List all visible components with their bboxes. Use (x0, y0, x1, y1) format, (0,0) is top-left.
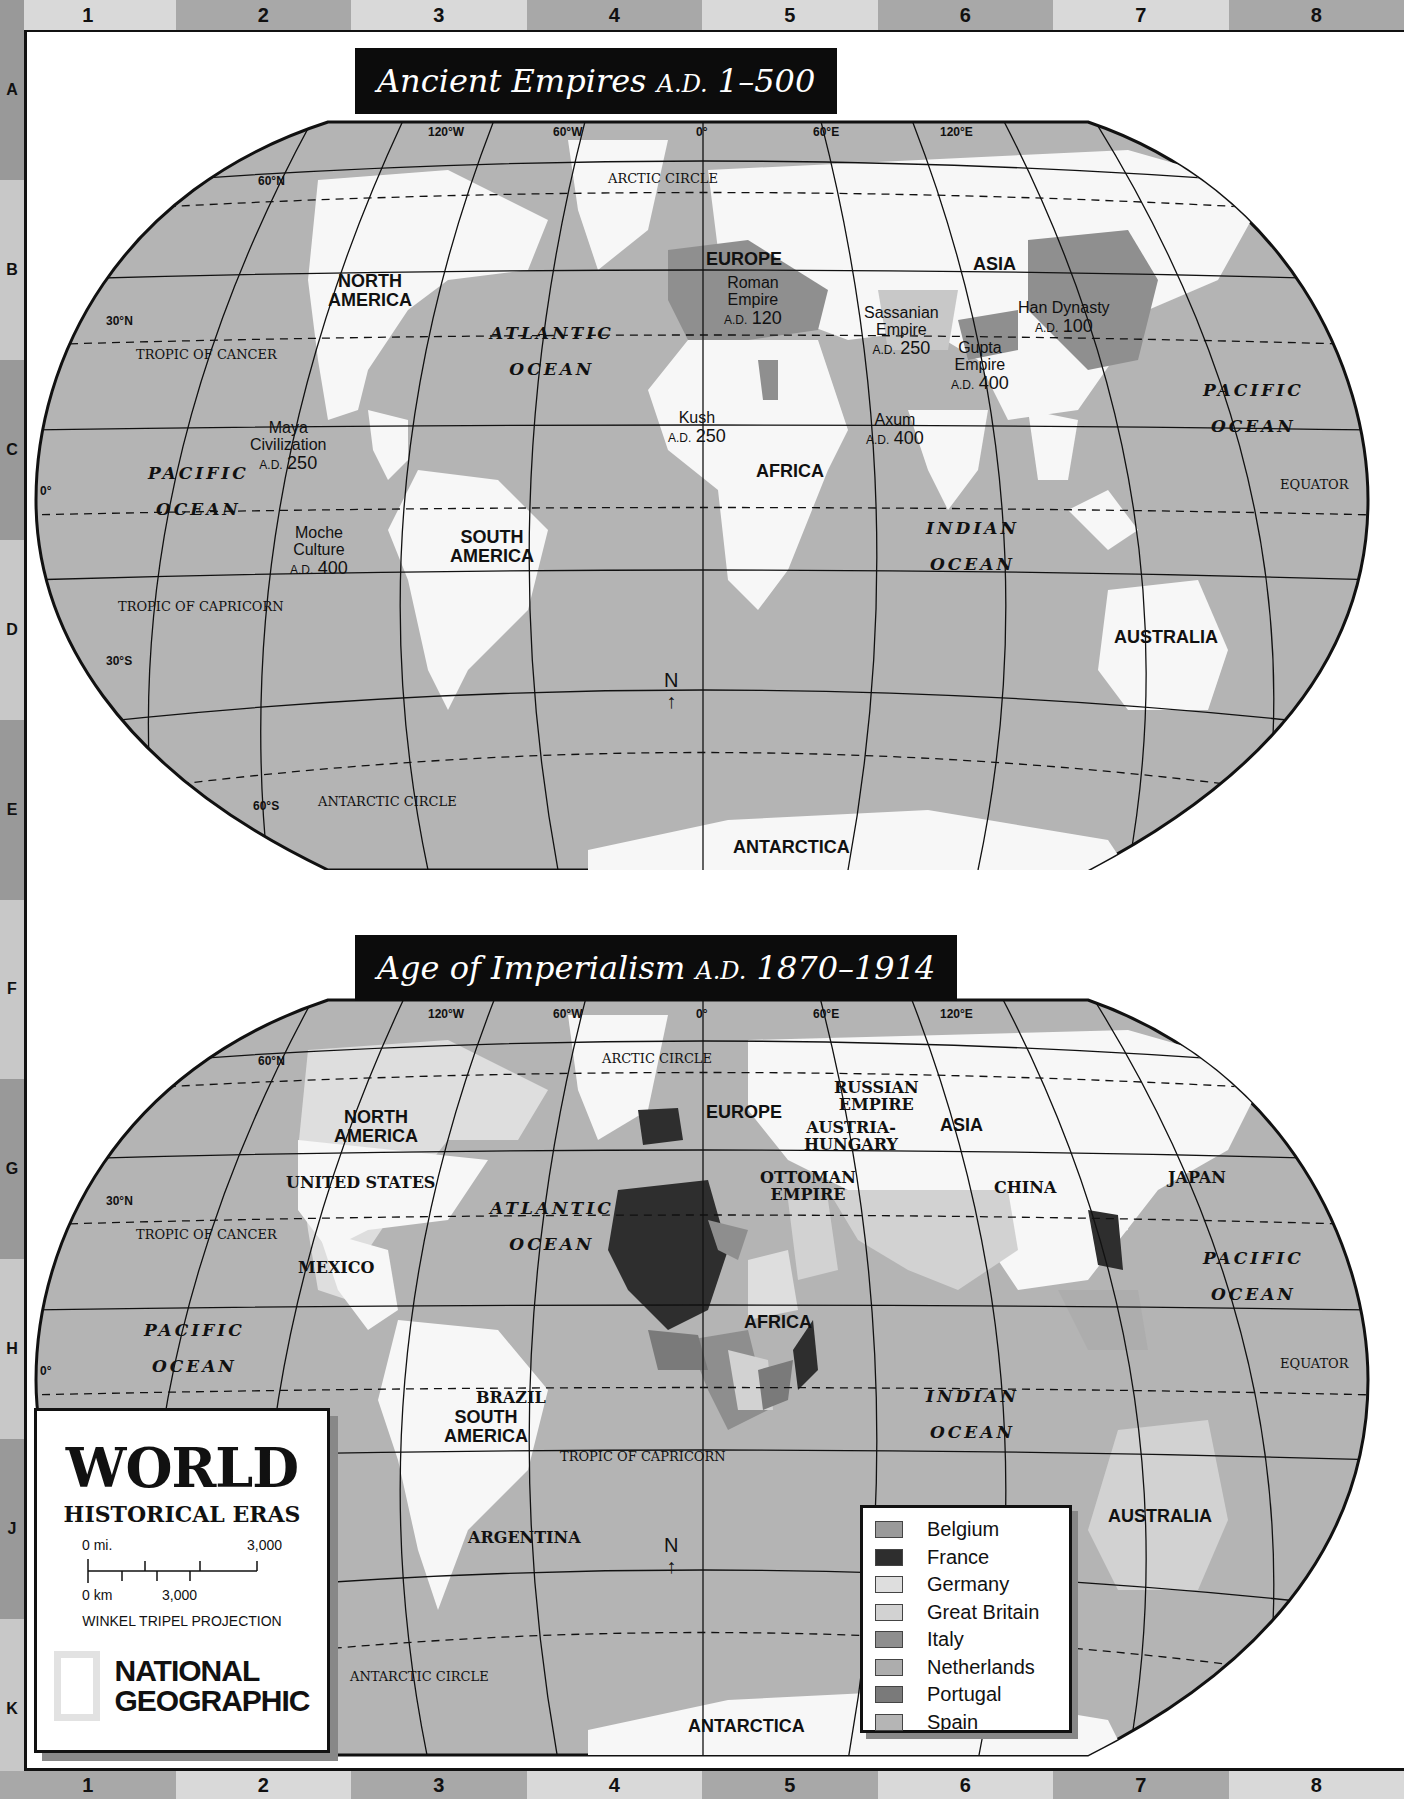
grid-row-c: C (0, 360, 24, 540)
legend-item-italy: Italy (875, 1626, 1069, 1654)
swatch-icon (875, 1576, 903, 1593)
tropic-of-cancer-label: TROPIC OF CANCER (136, 1228, 277, 1242)
empire-axum: AxumA.D. 400 (866, 412, 924, 448)
swatch-icon (875, 1714, 903, 1731)
continent-africa: AFRICA (756, 462, 824, 481)
civilization-maya: MayaCivilizationA.D. 250 (250, 420, 326, 472)
grid-row-g: G (0, 1079, 24, 1259)
legend-item-netherlands: Netherlands (875, 1654, 1069, 1682)
ocean-indian: INDIANOCEAN (926, 520, 1019, 574)
grid-col-7: 7 (1053, 1771, 1229, 1799)
grid-row-a: A (0, 0, 24, 180)
ocean-pacific: PACIFICOCEAN (148, 465, 249, 519)
longitude-label: 60°W (553, 126, 582, 139)
latitude-label: 60°N (258, 175, 285, 188)
legend-item-france: France (875, 1544, 1069, 1572)
grid-col-6: 6 (878, 0, 1054, 30)
antarctic-circle-label: ANTARCTIC CIRCLE (350, 1670, 489, 1684)
national-geographic-logo: NATIONALGEOGRAPHIC (37, 1651, 327, 1721)
legend-item-germany: Germany (875, 1571, 1069, 1599)
antarctic-circle-label: ANTARCTIC CIRCLE (318, 795, 457, 809)
grid-col-1: 1 (0, 1771, 176, 1799)
continent-asia: ASIA (940, 1116, 983, 1135)
longitude-label: 120°E (940, 1008, 973, 1021)
empire-gupta: GuptaEmpireA.D. 400 (951, 340, 1009, 392)
continent-europe: EUROPE (706, 1103, 782, 1122)
continent-south-america: SOUTHAMERICA (450, 528, 534, 566)
longitude-label: 0° (696, 126, 707, 139)
swatch-icon (875, 1549, 903, 1566)
grid-row-j: J (0, 1439, 24, 1619)
continent-north-america: NORTHAMERICA (328, 272, 412, 310)
grid-col-4: 4 (527, 0, 703, 30)
empire-roman: RomanEmpireA.D. 120 (724, 275, 782, 327)
north-arrow-icon: N↑ (664, 1535, 678, 1577)
longitude-label: 0° (696, 1008, 707, 1021)
grid-row-strip-left: A B C D E F G H J K (0, 0, 24, 1799)
grid-row-d: D (0, 540, 24, 720)
subtitle: HISTORICAL ERAS (37, 1501, 327, 1527)
empire-kush: KushA.D. 250 (668, 410, 726, 446)
culture-moche: MocheCultureA.D. 400 (290, 525, 348, 577)
longitude-label: 120°E (940, 126, 973, 139)
swatch-icon (875, 1659, 903, 1676)
longitude-label: 60°W (553, 1008, 582, 1021)
grid-col-8: 8 (1229, 0, 1404, 30)
grid-col-2: 2 (176, 0, 352, 30)
continent-north-america: NORTHAMERICA (334, 1108, 418, 1146)
continent-europe: EUROPE (706, 250, 782, 269)
latitude-label: 30°N (106, 315, 133, 328)
ocean-atlantic: ATLANTICOCEAN (490, 325, 614, 379)
grid-col-5: 5 (702, 0, 878, 30)
map-title-ancient-empires: Ancient Empires A.D. 1–500 (355, 48, 837, 114)
map-title-age-of-imperialism: Age of Imperialism A.D. 1870–1914 (355, 935, 957, 1001)
grid-row-e: E (0, 720, 24, 900)
grid-column-strip-top: 1 2 3 4 5 6 7 8 (0, 0, 1404, 30)
map-ancient-empires: 120°W 60°W 0° 60°E 120°E 60°N 30°N 0° 30… (28, 110, 1378, 870)
country-russian-empire: RUSSIANEMPIRE (834, 1080, 919, 1114)
continent-australia: AUSTRALIA (1114, 628, 1218, 647)
grid-col-4: 4 (527, 1771, 703, 1799)
grid-col-8: 8 (1229, 1771, 1404, 1799)
country-argentina: ARGENTINA (468, 1530, 581, 1547)
legend-item-portugal: Portugal (875, 1681, 1069, 1709)
latitude-label: 30°S (106, 655, 132, 668)
continent-australia: AUSTRALIA (1108, 1507, 1212, 1526)
latitude-label: 0° (40, 1365, 51, 1378)
country-mexico: MEXICO (298, 1260, 374, 1277)
swatch-icon (875, 1686, 903, 1703)
tropic-of-capricorn-label: TROPIC OF CAPRICORN (560, 1450, 726, 1464)
continent-antarctica: ANTARCTICA (688, 1717, 805, 1736)
latitude-label: 0° (40, 485, 51, 498)
latitude-label: 30°N (106, 1195, 133, 1208)
grid-col-3: 3 (351, 1771, 527, 1799)
continent-asia: ASIA (973, 255, 1016, 274)
grid-col-6: 6 (878, 1771, 1054, 1799)
grid-row-f: F (0, 900, 24, 1080)
grid-col-2: 2 (176, 1771, 352, 1799)
country-japan: JAPAN (1168, 1170, 1226, 1187)
legend-item-great-britain: Great Britain (875, 1599, 1069, 1627)
swatch-icon (875, 1521, 903, 1538)
latitude-label: 60°S (253, 800, 279, 813)
legend-item-belgium: Belgium (875, 1516, 1069, 1544)
scale-bar-ruler-icon (82, 1555, 282, 1591)
empire-han-dynasty: Han DynastyA.D. 100 (1018, 300, 1110, 336)
country-ottoman-empire: OTTOMANEMPIRE (760, 1170, 856, 1204)
longitude-label: 120°W (428, 1008, 464, 1021)
longitude-label: 120°W (428, 126, 464, 139)
longitude-label: 60°E (813, 126, 839, 139)
grid-column-strip-bottom: 1 2 3 4 5 6 7 8 (0, 1771, 1404, 1799)
arctic-circle-label: ARCTIC CIRCLE (602, 1052, 712, 1066)
arctic-circle-label: ARCTIC CIRCLE (608, 172, 718, 186)
swatch-icon (875, 1604, 903, 1621)
swatch-icon (875, 1631, 903, 1648)
yellow-border-logo-icon (54, 1651, 100, 1721)
main-title: WORLD (37, 1441, 327, 1495)
ocean-indian: INDIANOCEAN (926, 1388, 1019, 1442)
tropic-of-capricorn-label: TROPIC OF CAPRICORN (118, 600, 284, 614)
continent-south-america: SOUTHAMERICA (444, 1408, 528, 1446)
scale-bar: 0 mi. 3,000 0 km 3,000 (82, 1537, 282, 1607)
equator-label: EQUATOR (1280, 1357, 1349, 1371)
ocean-pacific-east: PACIFICOCEAN (1203, 1250, 1304, 1304)
